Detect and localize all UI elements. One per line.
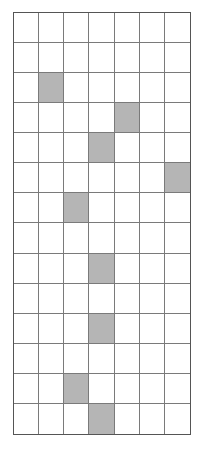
grid-cell (140, 314, 165, 344)
grid-cell (64, 163, 89, 193)
grid-cell (89, 163, 114, 193)
grid-cell (115, 254, 140, 284)
shaded-cell (39, 73, 64, 103)
grid-cell (39, 344, 64, 374)
grid-cell (14, 193, 39, 223)
grid-cell (165, 43, 190, 73)
grid-cell (115, 43, 140, 73)
grid-cell (165, 284, 190, 314)
grid-cell (14, 284, 39, 314)
grid-cell (115, 193, 140, 223)
grid-cell (165, 13, 190, 43)
grid-cell (115, 374, 140, 404)
grid-cell (14, 103, 39, 133)
grid-cell (89, 374, 114, 404)
grid-cell (140, 193, 165, 223)
grid-cell (140, 73, 165, 103)
grid-cell (140, 163, 165, 193)
grid-cell (140, 344, 165, 374)
grid-cell (14, 404, 39, 434)
shaded-cell (64, 193, 89, 223)
grid-cell (115, 284, 140, 314)
grid-cell (64, 314, 89, 344)
grid-cell (89, 344, 114, 374)
shaded-cell (89, 314, 114, 344)
grid-cell (39, 163, 64, 193)
grid-cell (64, 404, 89, 434)
grid-cell (140, 284, 165, 314)
grid-cell (140, 254, 165, 284)
grid-cell (140, 103, 165, 133)
grid-cell (39, 284, 64, 314)
grid-cell (115, 344, 140, 374)
shaded-cell (89, 133, 114, 163)
grid-cell (89, 13, 114, 43)
grid-cell (115, 13, 140, 43)
grid-cell (115, 73, 140, 103)
shaded-cell (115, 103, 140, 133)
grid-cell (165, 73, 190, 103)
grid-cell (14, 223, 39, 253)
grid-cell (39, 43, 64, 73)
grid-cell (14, 43, 39, 73)
grid-cell (39, 223, 64, 253)
grid-cell (165, 133, 190, 163)
grid-cell (64, 254, 89, 284)
grid-cell (115, 133, 140, 163)
grid-cell (14, 374, 39, 404)
grid-cell (115, 163, 140, 193)
grid-cell (64, 73, 89, 103)
grid-cell (39, 374, 64, 404)
grid-cell (89, 193, 114, 223)
grid-cell (64, 284, 89, 314)
grid-cell (140, 374, 165, 404)
grid-cell (64, 223, 89, 253)
grid-cell (115, 404, 140, 434)
grid-cell (14, 133, 39, 163)
grid-cell (14, 314, 39, 344)
grid-cell (39, 314, 64, 344)
grid-cell (115, 314, 140, 344)
grid-cell (89, 73, 114, 103)
grid-cell (89, 103, 114, 133)
grid-cell (140, 13, 165, 43)
grid-cell (140, 133, 165, 163)
grid-cell (39, 133, 64, 163)
grid-cell (165, 103, 190, 133)
grid-cell (140, 404, 165, 434)
grid-cell (115, 223, 140, 253)
grid-cell (165, 193, 190, 223)
grid-cell (39, 103, 64, 133)
grid-cell (165, 374, 190, 404)
grid-cell (89, 43, 114, 73)
cell-grid (13, 12, 191, 435)
shaded-cell (64, 374, 89, 404)
grid-cell (14, 344, 39, 374)
grid-cell (165, 314, 190, 344)
grid-cell (165, 404, 190, 434)
grid-cell (14, 73, 39, 103)
grid-cell (14, 254, 39, 284)
shaded-cell (89, 404, 114, 434)
grid-cell (64, 344, 89, 374)
grid-cell (165, 254, 190, 284)
grid-cell (140, 43, 165, 73)
grid-cell (39, 404, 64, 434)
grid-cell (39, 13, 64, 43)
grid-cell (64, 43, 89, 73)
grid-cell (165, 344, 190, 374)
grid-cell (89, 223, 114, 253)
grid-cell (64, 133, 89, 163)
grid-cell (89, 284, 114, 314)
grid-cell (64, 13, 89, 43)
shaded-cell (165, 163, 190, 193)
grid-cell (39, 193, 64, 223)
grid-cell (39, 254, 64, 284)
grid-cell (140, 223, 165, 253)
grid-cell (14, 163, 39, 193)
shaded-cell (89, 254, 114, 284)
grid-cell (165, 223, 190, 253)
grid-cell (14, 13, 39, 43)
grid-cell (64, 103, 89, 133)
